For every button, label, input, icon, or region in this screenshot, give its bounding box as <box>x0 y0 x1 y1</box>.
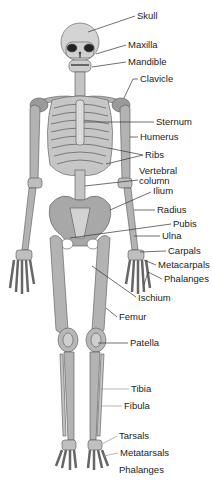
label-mandible: Mandible <box>128 57 167 67</box>
eye-socket-left <box>67 44 77 52</box>
radius-ulna-right <box>124 188 138 250</box>
label-vertebral-column: Vertebral column <box>139 166 179 186</box>
label-metatarsals: Metatarsals <box>120 448 169 458</box>
label-ischium: Ischium <box>138 293 171 303</box>
femur-left <box>50 235 68 333</box>
label-phalanges-hand: Phalanges <box>164 274 209 284</box>
skeleton-diagram <box>0 0 213 482</box>
humerus-left <box>30 105 40 182</box>
label-humerus: Humerus <box>140 132 179 142</box>
label-radius: Radius <box>157 205 187 215</box>
label-fibula: Fibula <box>124 401 150 411</box>
label-skull: Skull <box>137 11 158 21</box>
femur-right <box>92 235 110 333</box>
label-metacarpals: Metacarpals <box>158 260 210 270</box>
label-clavicle: Clavicle <box>140 74 173 84</box>
foot-left <box>56 440 76 470</box>
lumbar-vertebrae <box>75 170 85 200</box>
mandible <box>69 60 91 72</box>
label-sternum: Sternum <box>156 117 192 127</box>
label-patella: Patella <box>130 338 159 348</box>
label-maxilla: Maxilla <box>128 40 158 50</box>
cervical-vertebrae <box>75 72 85 96</box>
label-ribs: Ribs <box>145 150 164 160</box>
label-ulna: Ulna <box>162 231 182 241</box>
radius-ulna-left <box>22 188 36 250</box>
foot-right <box>88 440 108 470</box>
eye-socket-right <box>84 44 94 52</box>
patella-right <box>91 333 101 347</box>
label-phalanges-foot: Phalanges <box>119 465 164 475</box>
hand-left <box>10 250 34 294</box>
label-tibia: Tibia <box>131 384 151 394</box>
label-tarsals: Tarsals <box>119 431 149 441</box>
label-carpals: Carpals <box>168 246 201 256</box>
patella-left <box>63 333 73 347</box>
humerus-right <box>120 105 130 182</box>
sternum <box>76 100 84 145</box>
hand-right <box>126 250 150 294</box>
label-ilium: Ilium <box>153 186 173 196</box>
label-femur: Femur <box>119 312 146 322</box>
label-pubis: Pubis <box>173 219 197 229</box>
